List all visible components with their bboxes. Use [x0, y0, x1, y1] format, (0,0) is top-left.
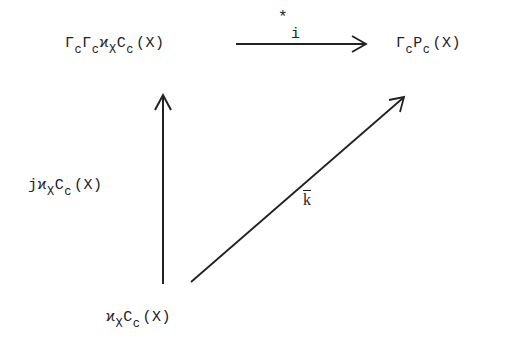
arrow-label-vertical: jϰXCc(X)	[28, 178, 102, 193]
node-top-left: ΓcΓcϰXCc(X)	[65, 36, 164, 51]
subscript: c	[64, 185, 72, 199]
arrow-i-star	[236, 36, 366, 52]
node-bottom: ϰXCc(X)	[106, 310, 171, 325]
glyph: ϰ	[99, 35, 109, 52]
glyph: P	[413, 35, 423, 52]
subscript: X	[47, 185, 55, 199]
glyph: ϰ	[106, 309, 116, 326]
glyph: (X)	[136, 35, 165, 52]
arrow-j-vertical	[155, 95, 171, 284]
glyph: j	[28, 177, 38, 194]
glyph: C	[55, 177, 65, 194]
arrow-label-k-bar: k	[303, 192, 311, 208]
glyph: (X)	[432, 35, 461, 52]
glyph: Γ	[82, 35, 92, 52]
glyph: Γ	[65, 35, 75, 52]
subscript: X	[109, 43, 117, 57]
glyph: ϰ	[38, 177, 48, 194]
arrow-k-bar-diagonal	[191, 97, 404, 282]
glyph: Γ	[396, 35, 406, 52]
arrow-label-star: *	[278, 10, 288, 26]
node-top-right: ΓcPc(X)	[396, 36, 461, 51]
glyph: C	[117, 35, 127, 52]
subscript: c	[133, 317, 141, 331]
subscript: c	[126, 43, 134, 57]
glyph: (X)	[74, 177, 103, 194]
glyph: C	[123, 309, 133, 326]
glyph: (X)	[142, 309, 171, 326]
subscript: c	[423, 43, 431, 57]
arrow-label-i: i	[291, 27, 300, 42]
